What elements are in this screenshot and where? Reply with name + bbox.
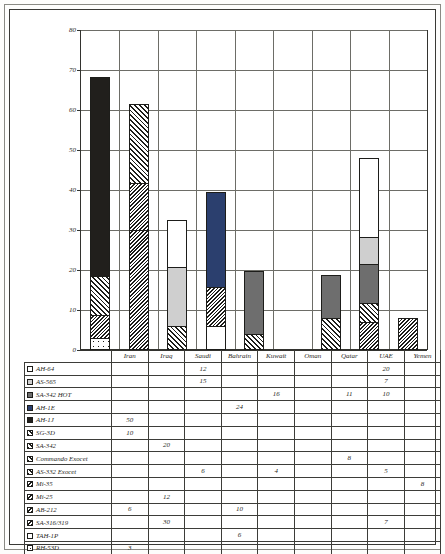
legend-swatch-icon <box>27 507 33 513</box>
table-cell <box>404 413 441 426</box>
legend-swatch-icon <box>27 392 33 398</box>
table-cell: 6 <box>185 465 222 478</box>
bar-segment[interactable] <box>359 264 379 304</box>
table-cell <box>258 401 295 414</box>
table-cell <box>148 401 185 414</box>
bar-segment[interactable] <box>359 237 379 265</box>
table-cell: 8 <box>404 477 441 490</box>
table-row: AH-1J50 <box>25 413 441 426</box>
bar-stack-saudi <box>167 220 187 349</box>
table-cell <box>148 375 185 388</box>
country-header-uae: UAE <box>368 350 405 362</box>
table-cell <box>185 452 222 465</box>
bar-column-yemen[interactable] <box>389 30 427 349</box>
table-row: AB-212610 <box>25 503 441 516</box>
table-cell <box>404 452 441 465</box>
bar-column-bahrain[interactable] <box>196 30 234 349</box>
legend-entry-as-332-exocet: AS-332 Exocet <box>25 465 112 478</box>
legend-entry-mi-35: Mi-35 <box>25 477 112 490</box>
table-cell <box>331 426 368 439</box>
bar-segment[interactable] <box>244 271 264 335</box>
bar-column-oman[interactable] <box>273 30 311 349</box>
bar-segment[interactable] <box>321 275 341 319</box>
table-cell <box>294 465 331 478</box>
table-cell <box>404 529 441 542</box>
bar-segment[interactable] <box>206 287 226 327</box>
legend-entry-sa-342: SA-342 <box>25 439 112 452</box>
table-cell <box>112 388 149 401</box>
table-cell: 3 <box>112 541 149 554</box>
bar-segment[interactable] <box>167 326 187 350</box>
table-cell <box>112 439 149 452</box>
bar-segment[interactable] <box>90 338 110 350</box>
legend-swatch-icon <box>27 481 33 487</box>
legend-label: Mi-25 <box>36 493 53 500</box>
bar-segment[interactable] <box>90 315 110 339</box>
bar-column-iran[interactable] <box>81 30 119 349</box>
country-header-qatar: Qatar <box>331 350 368 362</box>
bar-column-qatar[interactable] <box>312 30 350 349</box>
bar-segment[interactable] <box>129 230 149 350</box>
bar-column-kuwait[interactable] <box>235 30 273 349</box>
table-cell: 6 <box>221 529 258 542</box>
bar-column-saudi[interactable] <box>158 30 196 349</box>
table-cell <box>185 413 222 426</box>
legend-label: RH-53D <box>36 544 59 551</box>
table-row: Mi-2512 <box>25 490 441 503</box>
legend-label: AH-1E <box>36 404 55 411</box>
bar-segment[interactable] <box>167 220 187 268</box>
table-cell <box>148 452 185 465</box>
table-cell <box>294 516 331 529</box>
table-cell: 7 <box>368 375 405 388</box>
table-row: TAH-1P6 <box>25 529 441 542</box>
table-cell <box>331 541 368 554</box>
table-cell <box>185 477 222 490</box>
legend-swatch-icon <box>27 494 33 500</box>
bar-segment[interactable] <box>129 183 149 231</box>
table-cell <box>404 388 441 401</box>
country-header-bahrain: Bahrain <box>221 350 258 362</box>
table-cell <box>112 401 149 414</box>
bar-segment[interactable] <box>167 267 187 327</box>
table-cell: 5 <box>368 465 405 478</box>
legend-label: AB-212 <box>36 506 57 513</box>
bar-segment[interactable] <box>206 192 226 288</box>
table-cell <box>185 401 222 414</box>
table-cell <box>331 362 368 375</box>
table-cell <box>185 529 222 542</box>
legend-swatch-icon <box>27 430 33 436</box>
bar-segment[interactable] <box>244 334 264 350</box>
table-cell: 6 <box>112 503 149 516</box>
legend-label: SA-316/319 <box>36 519 68 526</box>
legend-data-table-wrapper: IranIraqSaudiBahrainKuwaitOmanQatarUAEYe… <box>24 350 441 554</box>
bar-segment[interactable] <box>359 303 379 323</box>
bar-column-uae[interactable] <box>350 30 388 349</box>
table-cell <box>258 375 295 388</box>
bar-stack-uae <box>359 158 379 349</box>
table-cell <box>404 439 441 452</box>
table-cell: 11 <box>331 388 368 401</box>
table-cell <box>331 503 368 516</box>
bar-segment[interactable] <box>129 104 149 184</box>
bar-segment[interactable] <box>206 326 226 350</box>
table-row: RH-53D3 <box>25 541 441 554</box>
bar-stack-kuwait <box>244 271 264 349</box>
table-cell: 12 <box>148 490 185 503</box>
bar-segment[interactable] <box>359 322 379 350</box>
table-cell <box>368 541 405 554</box>
ytick-label-80: 80 <box>69 26 76 34</box>
bar-segment[interactable] <box>90 276 110 316</box>
bar-column-iraq[interactable] <box>119 30 157 349</box>
bar-segment[interactable] <box>359 158 379 238</box>
bar-segment[interactable] <box>90 77 110 277</box>
table-header-row: IranIraqSaudiBahrainKuwaitOmanQatarUAEYe… <box>25 350 441 362</box>
table-cell <box>294 529 331 542</box>
table-cell <box>331 413 368 426</box>
table-row: SA-34220 <box>25 439 441 452</box>
legend-label: AH-64 <box>36 365 54 372</box>
table-cell <box>112 465 149 478</box>
table-cell <box>258 541 295 554</box>
bar-segment[interactable] <box>321 318 341 350</box>
bar-segment[interactable] <box>398 318 418 350</box>
table-cell <box>112 477 149 490</box>
